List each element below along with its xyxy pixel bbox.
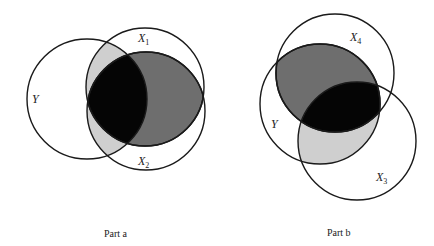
label-y-part-a: Y bbox=[32, 92, 40, 106]
panel-part-b: Y X4 X3 Part b bbox=[260, 14, 416, 238]
label-x4: X4 bbox=[349, 30, 361, 46]
label-y-part-b: Y bbox=[271, 117, 279, 131]
venn-diagram-canvas: Y X1 X2 Part a Y X4 X3 bbox=[0, 0, 434, 246]
panel-part-a: Y X1 X2 Part a bbox=[27, 28, 205, 239]
label-x2: X2 bbox=[137, 154, 149, 170]
caption-part-a: Part a bbox=[104, 228, 128, 239]
label-x3: X3 bbox=[375, 170, 387, 186]
caption-part-b: Part b bbox=[327, 227, 351, 238]
label-x1: X1 bbox=[137, 31, 149, 47]
